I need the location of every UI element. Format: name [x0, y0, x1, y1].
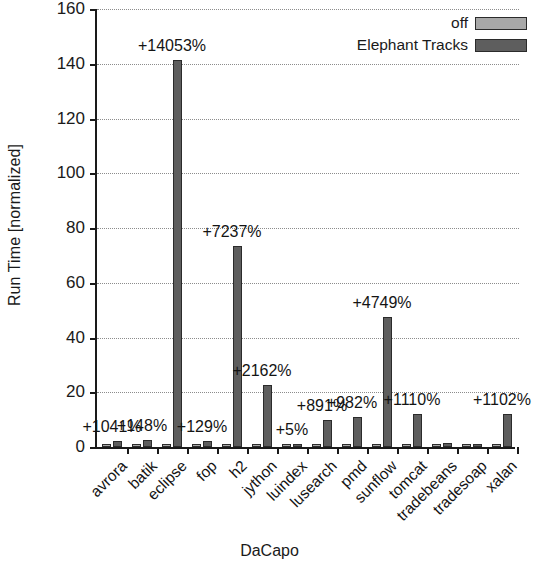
gridline [97, 392, 519, 393]
bar-fop-elephant-tracks [203, 441, 213, 447]
bar-eclipse-off [162, 444, 172, 447]
x-axis-tick-mark [457, 447, 459, 454]
gridline [97, 64, 519, 65]
x-axis-tick-mark [187, 447, 189, 454]
bar-lusearch-elephant-tracks [323, 420, 333, 447]
bar-xalan-elephant-tracks [503, 414, 513, 447]
bar-luindex-off [282, 444, 292, 447]
y-axis-tick-mark [90, 447, 97, 449]
x-axis-tick-mark [427, 447, 429, 454]
bar-value-annotation: +1102% [473, 391, 531, 409]
bar-tradesoap-off [462, 444, 472, 447]
bar-value-annotation: +148% [117, 417, 167, 435]
bar-tradesoap-elephant-tracks [473, 444, 483, 447]
gridline [97, 228, 519, 229]
y-axis-tick-mark [90, 392, 97, 394]
x-axis-title-text: DaCapo [240, 542, 299, 559]
x-axis-tick-mark [367, 447, 369, 454]
bar-tradebeans-off [432, 444, 442, 447]
bar-value-annotation: +7237% [202, 223, 261, 241]
y-axis-title-text: Run Time [normalized] [6, 144, 24, 306]
bar-pmd-elephant-tracks [353, 417, 363, 447]
y-axis-tick-label: 120 [57, 109, 85, 129]
bar-fop-off [192, 444, 202, 447]
y-axis-tick-label: 60 [66, 273, 85, 293]
bar-tomcat-off [402, 444, 412, 447]
y-axis-tick-mark [90, 64, 97, 66]
bar-jython-off [252, 444, 262, 447]
y-axis-tick-mark [90, 338, 97, 340]
chart-legend: offElephant Tracks [357, 14, 527, 58]
x-axis-tick-mark [487, 447, 489, 454]
y-axis-tick-label: 100 [57, 163, 85, 183]
bar-value-annotation: +1110% [384, 391, 441, 409]
plot-inner: 020406080100120140160avrora+1041%batik+1… [97, 11, 515, 447]
y-axis-tick-mark [90, 283, 97, 285]
bar-value-annotation: +982% [327, 394, 377, 412]
y-axis-tick-label: 40 [66, 328, 85, 348]
bar-value-annotation: +2162% [232, 362, 291, 380]
legend-item-off: off [357, 14, 527, 32]
gridline [97, 9, 519, 10]
x-axis-category-label: fop [193, 457, 221, 485]
y-axis-tick-label: 0 [76, 437, 85, 457]
legend-item-et: Elephant Tracks [357, 36, 527, 54]
y-axis-tick-label: 160 [57, 0, 85, 19]
bar-xalan-off [492, 444, 502, 447]
bar-value-annotation: +4749% [352, 294, 411, 312]
y-axis-tick-label: 80 [66, 218, 85, 238]
gridline [97, 283, 519, 284]
y-axis-tick-label: 140 [57, 54, 85, 74]
y-axis-tick-mark [90, 228, 97, 230]
bar-sunflow-elephant-tracks [383, 317, 393, 447]
bar-value-annotation: +5% [276, 421, 308, 439]
x-axis-tick-mark [157, 447, 159, 454]
y-axis-tick-label: 20 [66, 382, 85, 402]
bar-avrora-off [102, 444, 112, 447]
x-axis-title: DaCapo [0, 542, 539, 560]
bar-batik-elephant-tracks [143, 440, 153, 447]
bar-value-annotation: +129% [177, 418, 227, 436]
bar-value-annotation: +14053% [138, 37, 206, 55]
bar-luindex-elephant-tracks [293, 444, 303, 447]
bar-pmd-off [342, 444, 352, 447]
gridline [97, 173, 519, 174]
x-axis-tick-mark [397, 447, 399, 454]
legend-item-label: off [451, 14, 468, 32]
x-axis-tick-mark [307, 447, 309, 454]
x-axis-tick-mark [337, 447, 339, 454]
y-axis-title: Run Time [normalized] [2, 0, 28, 450]
gridline [97, 338, 519, 339]
bar-jython-elephant-tracks [263, 385, 273, 447]
bar-h2-elephant-tracks [233, 246, 243, 447]
bar-eclipse-elephant-tracks [173, 60, 183, 447]
bar-tradebeans-elephant-tracks [443, 443, 453, 447]
bar-sunflow-off [372, 444, 382, 447]
x-axis-category-label: xalan [482, 457, 521, 496]
legend-item-label: Elephant Tracks [357, 36, 468, 54]
y-axis-tick-mark [90, 9, 97, 11]
x-axis-tick-mark [247, 447, 249, 454]
y-axis-tick-mark [90, 119, 97, 121]
x-axis-tick-mark [127, 447, 129, 454]
bar-h2-off [222, 444, 232, 447]
legend-item-swatch [475, 17, 527, 30]
y-axis-tick-mark [90, 173, 97, 175]
x-axis-tick-mark [277, 447, 279, 454]
legend-item-swatch [475, 39, 527, 52]
x-axis-tick-mark [217, 447, 219, 454]
bar-tomcat-elephant-tracks [413, 414, 423, 447]
bar-lusearch-off [312, 444, 322, 447]
plot-area: 020406080100120140160avrora+1041%batik+1… [95, 11, 515, 449]
gridline [97, 119, 519, 120]
x-axis-tick-mark [517, 447, 519, 454]
chart-figure: Run Time [normalized] 020406080100120140… [0, 0, 539, 568]
bar-batik-off [132, 444, 142, 447]
bar-avrora-elephant-tracks [113, 441, 123, 447]
